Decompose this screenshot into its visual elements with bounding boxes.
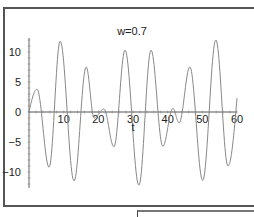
y-tick-label: −5	[8, 136, 21, 148]
y-tick-label: 5	[15, 76, 21, 88]
chart-title: w=0.7	[116, 25, 147, 37]
x-tick-label: 50	[196, 113, 208, 125]
x-axis-label: t	[131, 121, 134, 133]
x-tick-label: 60	[231, 113, 243, 125]
y-tick-label: 0	[15, 106, 21, 118]
line-chart: w=0.7 −10−50510102030405060 t	[0, 0, 254, 217]
x-tick-label: 40	[162, 113, 174, 125]
y-tick-label: 10	[9, 46, 21, 58]
y-tick-label: −10	[2, 166, 21, 178]
